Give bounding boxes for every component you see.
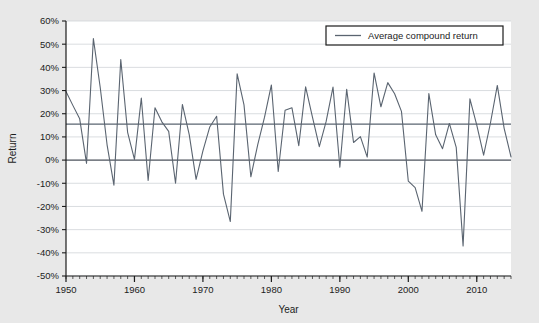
y-tick-label: 0% [45,154,59,165]
y-tick-label: 30% [40,85,60,96]
x-tick-label: 2010 [466,284,487,295]
y-tick-label: -50% [37,270,60,281]
y-tick-label: -40% [37,247,60,258]
returns-line-chart: 60%50%40%30%20%10%0%-10%-20%-30%-40%-50%… [0,0,539,323]
y-tick-label: -30% [37,224,60,235]
y-tick-label: 10% [40,131,60,142]
chart-figure: 60%50%40%30%20%10%0%-10%-20%-30%-40%-50%… [0,0,539,323]
y-tick-label: 60% [40,15,60,26]
y-tick-label: 20% [40,108,60,119]
plot-area-background [66,21,511,276]
x-tick-label: 1960 [124,284,145,295]
y-tick-label: 50% [40,39,60,50]
x-tick-label: 1980 [261,284,282,295]
x-tick-label: 1970 [192,284,213,295]
x-tick-label: 1990 [329,284,350,295]
y-tick-label: -10% [37,178,60,189]
chart-legend[interactable]: Average compound return [326,26,503,45]
legend-label-average-compound-return: Average compound return [368,30,478,41]
y-axis-title: Return [7,133,18,163]
y-tick-label: -20% [37,201,60,212]
x-tick-label: 1950 [55,284,76,295]
y-tick-label: 40% [40,62,60,73]
x-tick-label: 2000 [398,284,419,295]
x-axis-title: Year [278,304,299,315]
